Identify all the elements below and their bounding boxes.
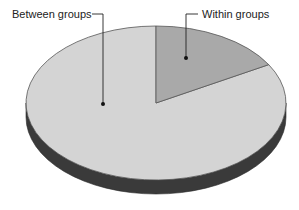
slice-label-between-groups: Between groups <box>12 8 92 20</box>
between-groups-leader-dot <box>101 102 105 106</box>
pie-slices <box>26 26 286 180</box>
slice-label-within-groups: Within groups <box>202 8 270 20</box>
within-groups-leader-dot <box>184 56 188 60</box>
pie-chart: Between groups Within groups <box>0 0 299 210</box>
